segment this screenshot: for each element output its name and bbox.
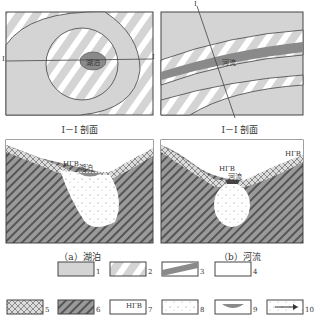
legend-num-1: 1 bbox=[96, 268, 100, 276]
legend-num-5: 5 bbox=[45, 306, 49, 314]
lake-section-caption: I－I 剖面 bbox=[50, 123, 110, 136]
caption-a: （a）湖泊 bbox=[45, 250, 115, 263]
river-section-caption: I－I 剖面 bbox=[210, 123, 270, 136]
river-cross-section bbox=[161, 140, 303, 243]
legend-num-2: 2 bbox=[148, 268, 152, 276]
section-mark-right: I bbox=[152, 53, 155, 61]
lake-plan-view bbox=[6, 12, 153, 115]
river-gw-label-right: НГВ bbox=[285, 150, 301, 158]
legend-7-text: НГВ bbox=[126, 302, 142, 310]
legend-num-9: 9 bbox=[253, 306, 257, 314]
legend-num-3: 3 bbox=[200, 268, 204, 276]
river-plan-label: 河流 bbox=[222, 57, 236, 67]
caption-b: （b）河流 bbox=[205, 250, 275, 263]
legend-num-4: 4 bbox=[253, 268, 257, 276]
legend-num-7: 7 bbox=[148, 306, 152, 314]
river-section-mark: I bbox=[194, 0, 197, 8]
section-mark-left: I bbox=[2, 55, 5, 63]
river-section-label: 河流 bbox=[228, 171, 242, 181]
diagram-canvas bbox=[0, 0, 322, 327]
legend-num-10: 10 bbox=[305, 306, 314, 314]
lake-gw-label: НГВ bbox=[63, 160, 79, 168]
lake-section-label: 湖泊 bbox=[79, 162, 93, 172]
lake-cross-section bbox=[6, 140, 153, 243]
lake-plan-label: 湖泊 bbox=[86, 57, 100, 67]
legend-num-6: 6 bbox=[96, 306, 100, 314]
legend bbox=[7, 262, 303, 314]
legend-num-8: 8 bbox=[200, 306, 204, 314]
